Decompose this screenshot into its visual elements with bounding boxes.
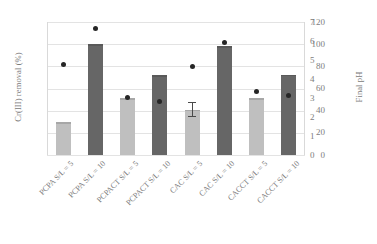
x-axis-category-labels: PCPA S/L = 5PCPA S/L = 10PCPACT S/L = 5P… [0, 0, 377, 244]
chart-container: Cr(III) removal (%) Final pH 02040608010… [0, 0, 377, 244]
